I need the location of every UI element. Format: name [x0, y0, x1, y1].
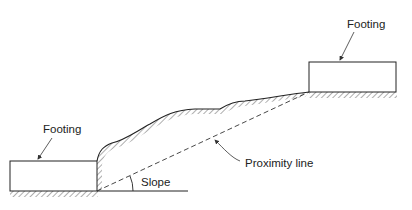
- slope-angle-arc: [130, 176, 133, 191]
- footing-left-leader-arrow: [38, 138, 52, 159]
- footing-right: [309, 62, 396, 92]
- footing-right-label: Footing: [347, 19, 385, 31]
- footing-right-leader-arrow: [340, 32, 354, 60]
- proximity-line-label: Proximity line: [245, 158, 313, 170]
- slope-label: Slope: [141, 177, 170, 189]
- slope-footing-diagram: [0, 0, 412, 210]
- ground-hatch-right: [309, 92, 397, 98]
- slope-surface: [97, 92, 309, 161]
- footing-left-label: Footing: [43, 124, 81, 136]
- ground-hatch-left: [10, 191, 98, 197]
- footing-left: [10, 161, 97, 191]
- proximity-line-leader-arrow: [215, 140, 240, 161]
